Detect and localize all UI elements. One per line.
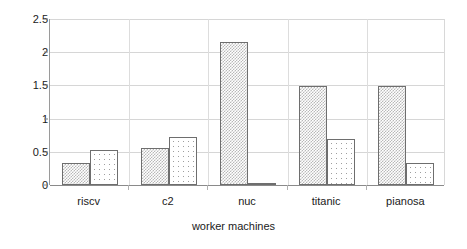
y-tick-mark <box>44 85 48 86</box>
y-tick-mark <box>44 52 48 53</box>
y-tick-label: 2.5 <box>4 14 48 25</box>
bars-layer <box>50 19 444 185</box>
x-axis-title: worker machines <box>0 221 467 232</box>
category-separator <box>288 19 289 185</box>
bar <box>90 150 118 185</box>
category-separator <box>129 19 130 185</box>
y-tick-mark <box>44 118 48 119</box>
bar <box>248 183 276 185</box>
bar-group <box>367 19 446 185</box>
x-tick-label-pianosa: pianosa <box>386 196 425 207</box>
bar-group <box>208 19 287 185</box>
x-tick-mark <box>128 185 129 190</box>
y-tick-mark <box>44 19 48 20</box>
x-tick-label-nuc: nuc <box>238 196 256 207</box>
y-axis: 00.511.522.5 <box>0 0 48 249</box>
bar <box>378 86 406 185</box>
bar <box>169 137 197 185</box>
x-tick-label-titanic: titanic <box>312 196 341 207</box>
x-tick-mark <box>207 185 208 190</box>
y-tick-label: 1.5 <box>4 80 48 91</box>
bar <box>327 139 355 185</box>
x-tick-mark <box>287 185 288 190</box>
bar <box>62 163 90 185</box>
x-tick-label-c2: c2 <box>162 196 174 207</box>
category-separator <box>367 19 368 185</box>
plot-area <box>49 19 445 185</box>
bar <box>406 163 434 185</box>
x-tick-label-riscv: riscv <box>77 196 100 207</box>
y-tick-label: 2 <box>4 47 48 58</box>
y-tick-label: 0.5 <box>4 146 48 157</box>
bar-group <box>50 19 129 185</box>
bar-chart: 00.511.522.5 riscvc2nuctitanicpianosa wo… <box>0 0 467 249</box>
bar <box>299 86 327 185</box>
y-tick-label: 0 <box>4 180 48 191</box>
bar-group <box>129 19 208 185</box>
y-tick-mark <box>44 151 48 152</box>
bar <box>220 42 248 185</box>
y-tick-mark <box>44 185 48 186</box>
axis-baseline <box>50 185 444 186</box>
bar-group <box>288 19 367 185</box>
category-separator <box>208 19 209 185</box>
x-tick-mark <box>366 185 367 190</box>
y-tick-label: 1 <box>4 113 48 124</box>
bar <box>141 148 169 185</box>
